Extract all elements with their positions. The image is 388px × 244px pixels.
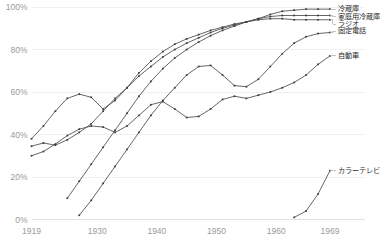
data-point-marker — [317, 33, 319, 35]
data-point-marker — [305, 19, 307, 21]
data-point-marker — [198, 116, 200, 118]
data-point-marker — [317, 8, 319, 10]
data-point-marker — [126, 87, 128, 89]
data-point-marker — [246, 98, 248, 100]
data-point-marker — [66, 139, 68, 141]
series-line — [294, 171, 330, 218]
data-point-marker — [162, 56, 164, 58]
data-point-marker — [102, 126, 104, 128]
data-point-marker — [150, 81, 152, 83]
legend-label: カラーテレビ — [338, 166, 380, 175]
y-tick-label: 20% — [10, 172, 27, 182]
data-point-marker — [186, 49, 188, 51]
data-point-marker — [293, 42, 295, 44]
y-tick-label: 80% — [10, 45, 27, 55]
data-point-marker — [78, 214, 80, 216]
data-point-marker — [66, 135, 68, 137]
data-point-marker — [234, 23, 236, 25]
data-point-marker — [269, 18, 271, 20]
data-point-marker — [293, 82, 295, 84]
data-point-marker — [78, 132, 80, 134]
data-point-marker — [31, 155, 33, 157]
data-point-marker — [102, 108, 104, 110]
data-point-marker — [174, 87, 176, 89]
data-point-marker — [234, 95, 236, 97]
legend-label: 固定電話 — [338, 26, 366, 35]
data-point-marker — [293, 9, 295, 11]
data-point-marker — [305, 36, 307, 38]
series-line — [32, 9, 331, 146]
data-point-marker — [150, 60, 152, 62]
data-point-marker — [210, 108, 212, 110]
data-point-marker — [305, 210, 307, 212]
data-point-marker — [126, 112, 128, 114]
data-point-marker — [90, 125, 92, 127]
data-point-marker — [210, 65, 212, 67]
x-tick-label: 1919 — [22, 226, 41, 236]
data-point-marker — [138, 95, 140, 97]
diffusion-line-chart: 0%20%40%60%80%100% 191919301940195019601… — [0, 0, 388, 244]
data-point-marker — [138, 75, 140, 77]
data-point-marker — [126, 149, 128, 151]
data-point-marker — [198, 41, 200, 43]
data-point-marker — [293, 217, 295, 219]
data-point-marker — [66, 197, 68, 199]
data-point-marker — [293, 15, 295, 17]
x-tick-label: 1950 — [207, 226, 226, 236]
chart-canvas: 0%20%40%60%80%100% 191919301940195019601… — [0, 0, 388, 244]
data-point-marker — [246, 86, 248, 88]
data-point-marker — [222, 26, 224, 28]
legend-leader-lines — [330, 9, 336, 171]
data-point-marker — [150, 115, 152, 117]
y-tick-label: 60% — [10, 87, 27, 97]
y-axis-tick-labels: 0%20%40%60%80%100% — [6, 2, 28, 225]
data-point-marker — [258, 78, 260, 80]
data-point-marker — [55, 143, 57, 145]
data-point-marker — [222, 99, 224, 101]
data-point-marker — [102, 146, 104, 148]
data-point-marker — [210, 30, 212, 32]
data-point-marker — [114, 166, 116, 168]
gridlines — [32, 7, 366, 220]
data-point-marker — [317, 64, 319, 66]
series-line — [32, 56, 331, 156]
data-point-marker — [78, 93, 80, 95]
data-point-marker — [293, 19, 295, 21]
data-point-marker — [138, 72, 140, 74]
data-point-marker — [186, 74, 188, 76]
data-point-marker — [138, 132, 140, 134]
data-point-marker — [114, 129, 116, 131]
data-point-marker — [269, 91, 271, 93]
data-point-marker — [210, 35, 212, 37]
data-point-marker — [234, 85, 236, 87]
data-point-marker — [198, 37, 200, 39]
x-tick-label: 1960 — [267, 226, 286, 236]
data-point-marker — [281, 15, 283, 17]
data-point-marker — [78, 180, 80, 182]
data-point-marker — [174, 57, 176, 59]
data-point-marker — [90, 123, 92, 125]
x-tick-label: 1930 — [88, 226, 107, 236]
data-point-marker — [150, 66, 152, 68]
data-point-marker — [90, 163, 92, 165]
data-point-marker — [102, 183, 104, 185]
data-point-marker — [317, 15, 319, 17]
data-point-marker — [43, 151, 45, 153]
data-point-marker — [162, 68, 164, 70]
data-point-marker — [246, 21, 248, 23]
data-point-marker — [114, 98, 116, 100]
data-point-marker — [43, 125, 45, 127]
data-point-marker — [174, 49, 176, 51]
x-tick-label: 1940 — [147, 226, 166, 236]
data-point-marker — [114, 132, 116, 134]
y-tick-label: 0% — [15, 215, 28, 225]
data-point-marker — [186, 38, 188, 40]
data-point-marker — [186, 42, 188, 44]
x-tick-label: 1969 — [321, 226, 340, 236]
data-point-marker — [317, 19, 319, 21]
data-point-marker — [78, 128, 80, 130]
data-point-marker — [222, 74, 224, 76]
data-point-marker — [31, 145, 33, 147]
y-tick-label: 40% — [10, 130, 27, 140]
data-point-marker — [186, 117, 188, 119]
